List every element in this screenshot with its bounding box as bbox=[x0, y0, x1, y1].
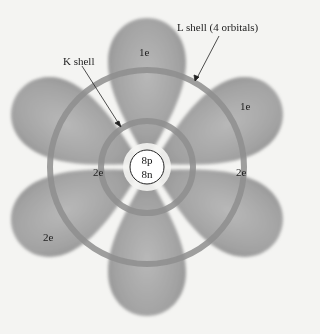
nucleus-protons: 8p bbox=[132, 155, 162, 166]
k-shell-label: K shell bbox=[63, 56, 94, 67]
l-shell-pointer bbox=[194, 36, 219, 81]
electron-label-top: 1e bbox=[139, 47, 149, 58]
electron-label-right-inner: 2e bbox=[236, 167, 246, 178]
electron-label-left-inner: 2e bbox=[93, 167, 103, 178]
electron-label-upper-right: 1e bbox=[240, 101, 250, 112]
l-shell-label: L shell (4 orbitals) bbox=[177, 22, 258, 33]
electron-label-lower-left: 2e bbox=[43, 232, 53, 243]
nucleus-neutrons: 8n bbox=[132, 169, 162, 180]
